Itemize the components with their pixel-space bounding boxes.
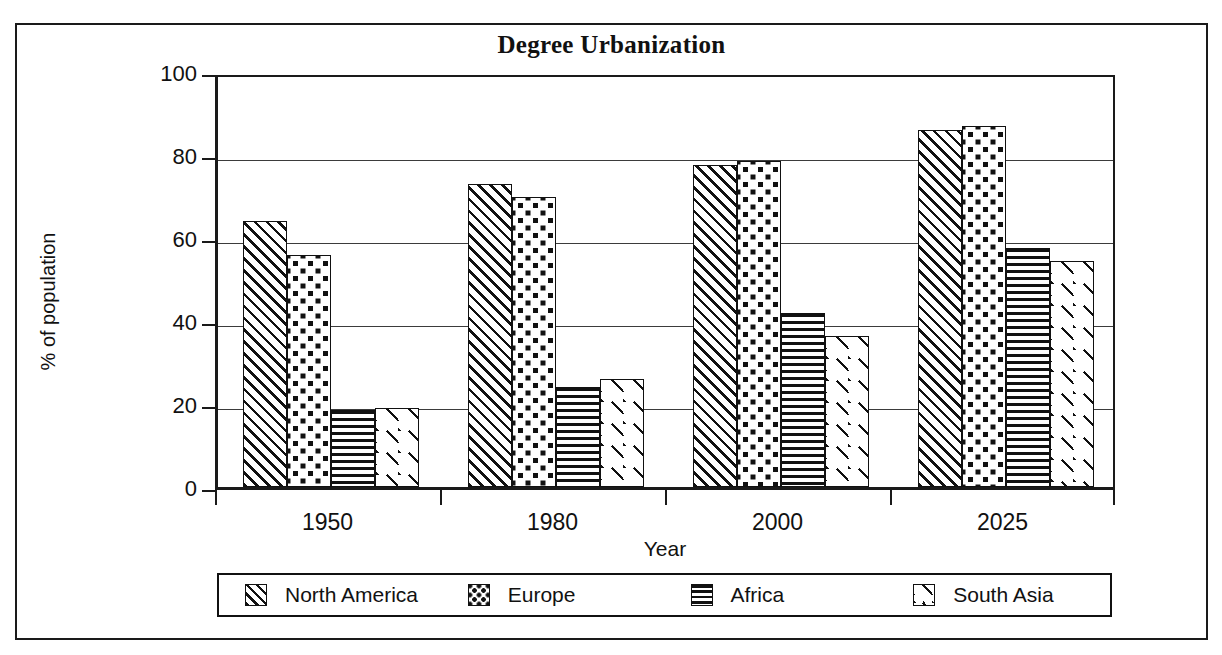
x-axis-tick-label: 2025 [903,509,1103,536]
chart-legend: North AmericaEuropeAfricaSouth Asia [217,573,1112,617]
bar[interactable] [556,387,600,487]
legend-label: South Asia [953,583,1053,607]
bar[interactable] [1006,248,1050,487]
bar[interactable] [781,313,825,487]
bar[interactable] [918,130,962,487]
legend-item[interactable]: Africa [665,583,888,607]
y-axis-tick-mark [202,75,215,77]
plot-area [215,75,1115,490]
legend-item[interactable]: South Asia [887,583,1110,607]
chart-figure: Degree Urbanization % of population 0204… [15,23,1208,640]
legend-swatch-icon [691,584,713,606]
bar[interactable] [331,410,375,487]
chart-title: Degree Urbanization [17,31,1206,59]
legend-swatch-icon [245,584,267,606]
y-axis-tick-label: 40 [137,312,197,334]
legend-item[interactable]: Europe [442,583,665,607]
x-axis-tick-mark [890,490,892,505]
bar[interactable] [600,379,644,487]
x-axis-tick-labels: 1950198020002025 [215,509,1115,539]
y-axis-tick-mark [202,490,215,492]
y-axis-tick-mark [202,407,215,409]
bar[interactable] [512,197,556,488]
y-axis-title: % of population [37,202,60,402]
bar[interactable] [468,184,512,487]
x-axis-tick-label: 1950 [228,509,428,536]
bar[interactable] [243,221,287,487]
bar[interactable] [962,126,1006,487]
y-axis-tick-label: 20 [137,395,197,417]
legend-label: Europe [508,583,576,607]
y-axis-tick-mark [202,324,215,326]
bar[interactable] [287,255,331,487]
y-axis-tick-label: 0 [137,478,197,500]
y-axis-tick-label: 60 [137,229,197,251]
y-axis-tick-label: 80 [137,146,197,168]
legend-swatch-icon [468,584,490,606]
y-axis-tick-label: 100 [137,63,197,85]
x-axis-title: Year [215,537,1115,561]
bar[interactable] [693,165,737,487]
x-axis-tick-marks [215,490,1115,506]
bar[interactable] [737,161,781,487]
x-axis-tick-mark [440,490,442,505]
bar-series-container [218,77,1113,487]
x-axis-tick-mark [215,490,217,505]
legend-swatch-icon [913,584,935,606]
x-axis-tick-mark [665,490,667,505]
bar[interactable] [375,408,419,487]
x-axis-tick-label: 1980 [453,509,653,536]
bar[interactable] [1050,261,1094,487]
x-axis-tick-label: 2000 [678,509,878,536]
legend-label: North America [285,583,418,607]
y-axis-tick-mark [202,241,215,243]
legend-item[interactable]: North America [219,583,442,607]
y-axis-tick-mark [202,158,215,160]
bar[interactable] [825,336,869,487]
legend-label: Africa [731,583,785,607]
x-axis-tick-mark [1113,490,1115,505]
